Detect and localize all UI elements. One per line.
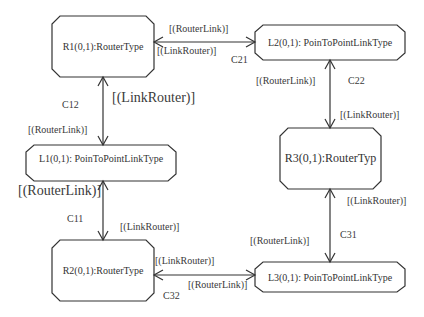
c21-end-label-linkrouter: [(LinkRouter)] [157, 46, 216, 56]
c21-end-label-routerlink: [(RouterLink)] [169, 24, 228, 34]
c11-end-label-routerlink: [(RouterLink)] [18, 184, 101, 198]
c31-end-label-linkrouter: [(LinkRouter)] [347, 196, 406, 206]
c12-end-label-linkrouter: [(LinkRouter)] [112, 91, 195, 105]
node-l3-label: L3(0,1): PoinToPointLinkType [255, 262, 405, 292]
c12-end-label-routerlink: [(RouterLink)] [28, 125, 87, 135]
c31-connector-name: C31 [340, 230, 357, 240]
c12-connector-name: C12 [62, 100, 79, 110]
node-l2-label: L2(0,1): PoinToPointLinkType [255, 25, 405, 60]
c21-connector-name: C21 [231, 55, 248, 65]
node-l1-label: L1(0,1): PoinToPointLinkType [26, 145, 176, 171]
c11-end-label-linkrouter: [(LinkRouter)] [120, 222, 179, 232]
c32-connector-name: C32 [163, 291, 180, 301]
c32-end-label-linkrouter: [(LinkRouter)] [155, 256, 214, 266]
c22-end-label-linkrouter: [(LinkRouter)] [340, 110, 399, 120]
c31-end-label-routerlink: [(RouterLink)] [250, 236, 309, 246]
c32-end-label-routerlink: [(RouterLink)] [188, 280, 247, 290]
node-r2-label: R2(0,1):RouterType [52, 240, 154, 301]
c22-end-label-routerlink: [(RouterLink)] [256, 76, 315, 86]
c22-connector-name: C22 [348, 76, 365, 86]
c11-connector-name: C11 [67, 214, 83, 224]
node-r3-label: R3(0,1):RouterTyp [280, 128, 381, 189]
node-r1-label: R1(0,1):RouterType [52, 16, 154, 77]
